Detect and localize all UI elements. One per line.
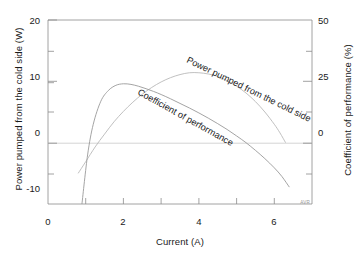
- plot-area: Power pumped from the cold side Coeffici…: [0, 0, 356, 258]
- series-line-coefficient-of-performance: [82, 84, 289, 204]
- y-axis-left-ticks: [48, 20, 57, 174]
- annotation-coefficient-of-performance: Coefficient of performance: [136, 87, 235, 148]
- x-axis-ticks: [86, 198, 275, 204]
- annotation-power-pumped: Power pumped from the cold side: [185, 55, 312, 124]
- chart-figure: Power pumped from the cold side (W) Coef…: [0, 0, 356, 258]
